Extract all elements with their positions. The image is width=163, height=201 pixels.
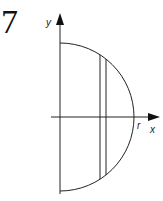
half-circle-diagram: y r x	[0, 0, 163, 201]
y-label: y	[45, 17, 52, 28]
y-axis-arrow-icon	[56, 13, 64, 25]
x-axis-arrow-icon	[148, 113, 160, 121]
x-label: x	[149, 124, 156, 135]
radius-label: r	[137, 120, 141, 131]
